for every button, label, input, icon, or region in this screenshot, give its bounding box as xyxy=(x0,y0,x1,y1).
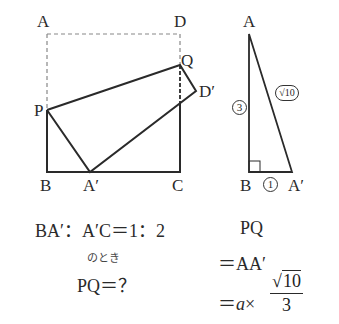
fraction-denominator: 3 xyxy=(270,294,303,316)
question-text: PQ＝？ xyxy=(77,271,136,297)
vertex-label-P: P xyxy=(34,102,43,119)
vertex-label-B: B xyxy=(40,177,51,194)
fraction-numerator: √10 xyxy=(270,271,303,294)
equals-sign: ＝ xyxy=(218,294,236,314)
vertex-label-D: D xyxy=(174,13,186,30)
vertex-label-A: A xyxy=(37,13,49,30)
vertex-label-A-prime: A′ xyxy=(83,177,99,194)
hypotenuse-sqrt10-badge: √10 xyxy=(275,85,299,101)
side-length-1-badge: 1 xyxy=(263,177,278,192)
solution-line-aa-prime: ＝AA′ xyxy=(218,249,266,275)
vertex-label-Q: Q xyxy=(181,52,193,69)
sqrt-symbol: √ xyxy=(272,271,282,291)
ratio-condition: BA′：A′C＝1：2 xyxy=(35,216,165,242)
side-length-3-badge: 3 xyxy=(232,100,247,115)
fraction-sqrt10-over-3: √10 3 xyxy=(270,271,303,316)
triangle-vertex-A-prime: A′ xyxy=(288,177,304,194)
triangle-vertex-A: A xyxy=(243,13,255,30)
geometry-figure: A D Q D′ P B A′ C A B A′ 3 1 √10 BA′：A′C… xyxy=(0,0,339,324)
vertex-label-C: C xyxy=(172,177,183,194)
solution-line-formula: ＝a× xyxy=(218,289,255,315)
triangle-vertex-B: B xyxy=(240,177,251,194)
times-sign: × xyxy=(245,294,255,314)
sqrt-radicand: 10 xyxy=(282,270,301,291)
vertex-label-D-prime: D′ xyxy=(199,83,215,100)
variable-a: a xyxy=(236,294,245,314)
solution-line-pq: PQ xyxy=(240,218,263,239)
when-text: のとき xyxy=(87,249,120,265)
